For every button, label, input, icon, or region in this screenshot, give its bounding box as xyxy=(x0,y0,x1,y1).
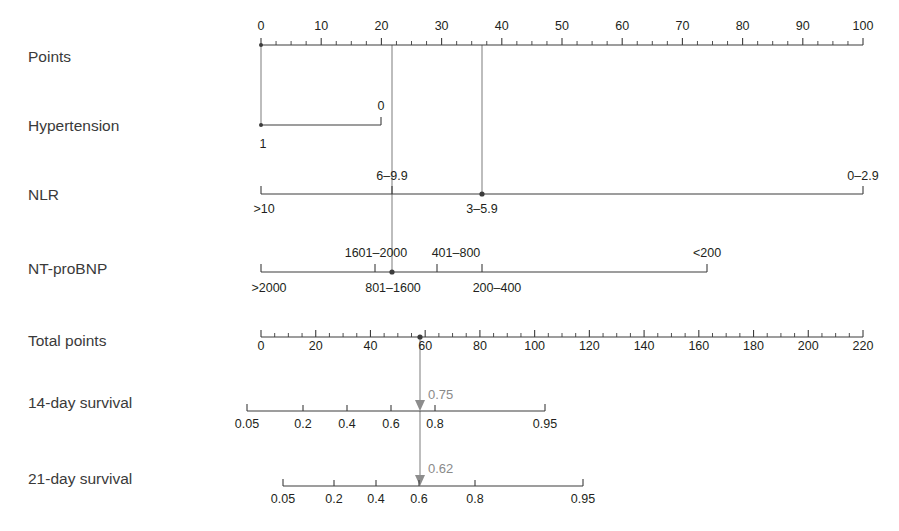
points-tick-labels: 0102030405060708090100 xyxy=(258,19,874,33)
ntprobnp-label-801-1600: 801–1600 xyxy=(365,281,421,295)
axis-hypertension: 0 1 xyxy=(259,99,385,151)
survival-14-ticks xyxy=(247,404,545,411)
tick-label: 60 xyxy=(615,19,629,33)
tick-label: 140 xyxy=(634,339,655,353)
survival-21-ticks xyxy=(283,479,583,486)
probability-tick-label: 0.4 xyxy=(338,417,355,431)
ntprobnp-label-lt200: <200 xyxy=(693,246,721,260)
readout-14day: 0.75 xyxy=(428,387,453,402)
tick-label: 60 xyxy=(418,339,432,353)
ntprobnp-marker-dot xyxy=(389,269,394,274)
tick-label: 180 xyxy=(743,339,764,353)
probability-tick-label: 0.05 xyxy=(271,492,295,506)
row-label-survival-21: 21-day survival xyxy=(28,470,132,487)
probability-tick-label: 0.05 xyxy=(235,417,259,431)
tick-label: 40 xyxy=(363,339,377,353)
ntprobnp-label-200-400: 200–400 xyxy=(473,281,522,295)
row-label-total-points: Total points xyxy=(28,332,107,349)
tick-label: 0 xyxy=(258,339,265,353)
tick-label: 100 xyxy=(853,19,874,33)
ntprobnp-label-1601-2000: 1601–2000 xyxy=(345,246,408,260)
probability-tick-label: 0.95 xyxy=(533,417,557,431)
nomogram-figure: Points Hypertension NLR NT-proBNP Total … xyxy=(0,0,899,531)
tick-label: 20 xyxy=(374,19,388,33)
probability-tick-label: 0.4 xyxy=(367,492,384,506)
axis-points: 0102030405060708090100 xyxy=(258,19,874,47)
tick-label: 80 xyxy=(473,339,487,353)
probability-tick-label: 0.2 xyxy=(325,492,342,506)
readout-21day: 0.62 xyxy=(428,461,453,476)
probability-tick-label: 0.2 xyxy=(294,417,311,431)
tick-label: 160 xyxy=(688,339,709,353)
tick-label: 50 xyxy=(555,19,569,33)
hypertension-label-1: 1 xyxy=(260,137,267,151)
hypertension-label-0: 0 xyxy=(378,99,385,113)
tick-label: 100 xyxy=(524,339,545,353)
arrowhead-14day xyxy=(415,400,425,411)
probability-tick-label: 0.6 xyxy=(410,492,427,506)
axis-survival-21: 0.050.20.40.60.80.95 0.62 xyxy=(271,461,595,506)
axis-total-points: 020406080100120140160180200220 xyxy=(258,330,874,353)
axis-ntprobnp: 1601–2000 401–800 <200 >2000 801–1600 20… xyxy=(251,246,721,295)
tick-label: 220 xyxy=(853,339,874,353)
row-label-points: Points xyxy=(28,48,71,65)
tick-label: 40 xyxy=(495,19,509,33)
nlr-label-6-9.9: 6–9.9 xyxy=(376,169,407,183)
total-points-marker-dot xyxy=(417,334,422,339)
tick-label: 10 xyxy=(314,19,328,33)
row-label-survival-14: 14-day survival xyxy=(28,394,132,411)
tick-label: 30 xyxy=(435,19,449,33)
tick-label: 120 xyxy=(579,339,600,353)
probability-tick-label: 0.6 xyxy=(382,417,399,431)
ntprobnp-label-401-800: 401–800 xyxy=(432,246,481,260)
probability-tick-label: 0.95 xyxy=(571,492,595,506)
arrowhead-21day xyxy=(415,475,425,486)
tick-label: 0 xyxy=(258,19,265,33)
nlr-label-3-5.9: 3–5.9 xyxy=(466,202,497,216)
row-label-hypertension: Hypertension xyxy=(28,117,119,134)
survival-14-tick-labels: 0.050.20.40.60.80.95 xyxy=(235,417,557,431)
axis-nlr: 6–9.9 0–2.9 >10 3–5.9 xyxy=(253,169,878,216)
nlr-label-gt10: >10 xyxy=(253,202,274,216)
row-label-nlr: NLR xyxy=(28,186,59,203)
probability-tick-label: 0.8 xyxy=(426,417,443,431)
tick-label: 90 xyxy=(796,19,810,33)
tick-label: 20 xyxy=(309,339,323,353)
hypertension-tick-1-dot xyxy=(259,123,263,127)
tick-label: 200 xyxy=(798,339,819,353)
points-origin-dot xyxy=(259,43,263,47)
nlr-marker-dot xyxy=(479,191,484,196)
tick-label: 70 xyxy=(675,19,689,33)
probability-tick-label: 0.8 xyxy=(466,492,483,506)
total-points-minor-ticks xyxy=(275,333,850,337)
ntprobnp-label-gt2000: >2000 xyxy=(251,281,286,295)
tick-label: 80 xyxy=(736,19,750,33)
total-points-tick-labels: 020406080100120140160180200220 xyxy=(258,339,874,353)
axis-survival-14: 0.050.20.40.60.80.95 0.75 xyxy=(235,387,557,431)
survival-21-tick-labels: 0.050.20.40.60.80.95 xyxy=(271,492,595,506)
nlr-label-0-2.9: 0–2.9 xyxy=(847,169,878,183)
row-label-ntprobnp: NT-proBNP xyxy=(28,260,107,277)
